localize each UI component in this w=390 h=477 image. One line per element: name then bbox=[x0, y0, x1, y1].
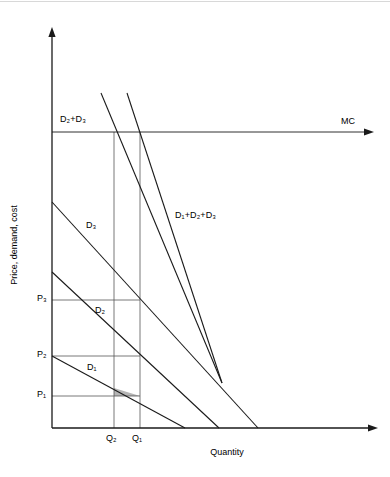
tick-label-p1: P₁ bbox=[37, 390, 46, 399]
demand-curves bbox=[52, 202, 258, 428]
label-d3: D₃ bbox=[86, 221, 96, 230]
tick-label-q1: Q₁ bbox=[132, 434, 142, 443]
axes bbox=[52, 33, 372, 428]
guide-lines bbox=[52, 132, 140, 428]
y-axis-arrowhead bbox=[48, 27, 55, 37]
aggregate-demand-curves bbox=[101, 93, 222, 383]
label-d1: D₁ bbox=[87, 363, 97, 372]
curve-d3 bbox=[52, 202, 258, 428]
label-d2-plus-d3: D₂+D₃ bbox=[60, 115, 86, 124]
label-d2: D₂ bbox=[95, 306, 105, 315]
curve-d1 bbox=[52, 356, 185, 428]
x-axis-title: Quantity bbox=[210, 447, 244, 457]
chart-plot-area bbox=[0, 0, 390, 477]
curve-d1-plus-d2-plus-d3 bbox=[127, 93, 222, 383]
x-axis-arrowhead bbox=[368, 424, 378, 431]
label-d1-plus-d2-plus-d3: D₁+D₂+D₃ bbox=[175, 211, 216, 220]
mc-arrowhead bbox=[364, 129, 374, 136]
tick-label-p2: P₂ bbox=[37, 350, 47, 359]
tick-label-p3: P₃ bbox=[37, 294, 47, 303]
economics-demand-chart: D₂+D₃ MC D₃ D₁+D₂+D₃ D₂ D₁ P₃ P₂ P₁ Q₂ Q… bbox=[0, 0, 390, 477]
curve-d2-plus-d3 bbox=[101, 93, 222, 383]
y-axis-title: Price, demand, cost bbox=[9, 205, 19, 285]
tick-label-q2: Q₂ bbox=[106, 434, 117, 443]
curve-d2 bbox=[52, 272, 219, 428]
label-mc: MC bbox=[341, 117, 355, 126]
